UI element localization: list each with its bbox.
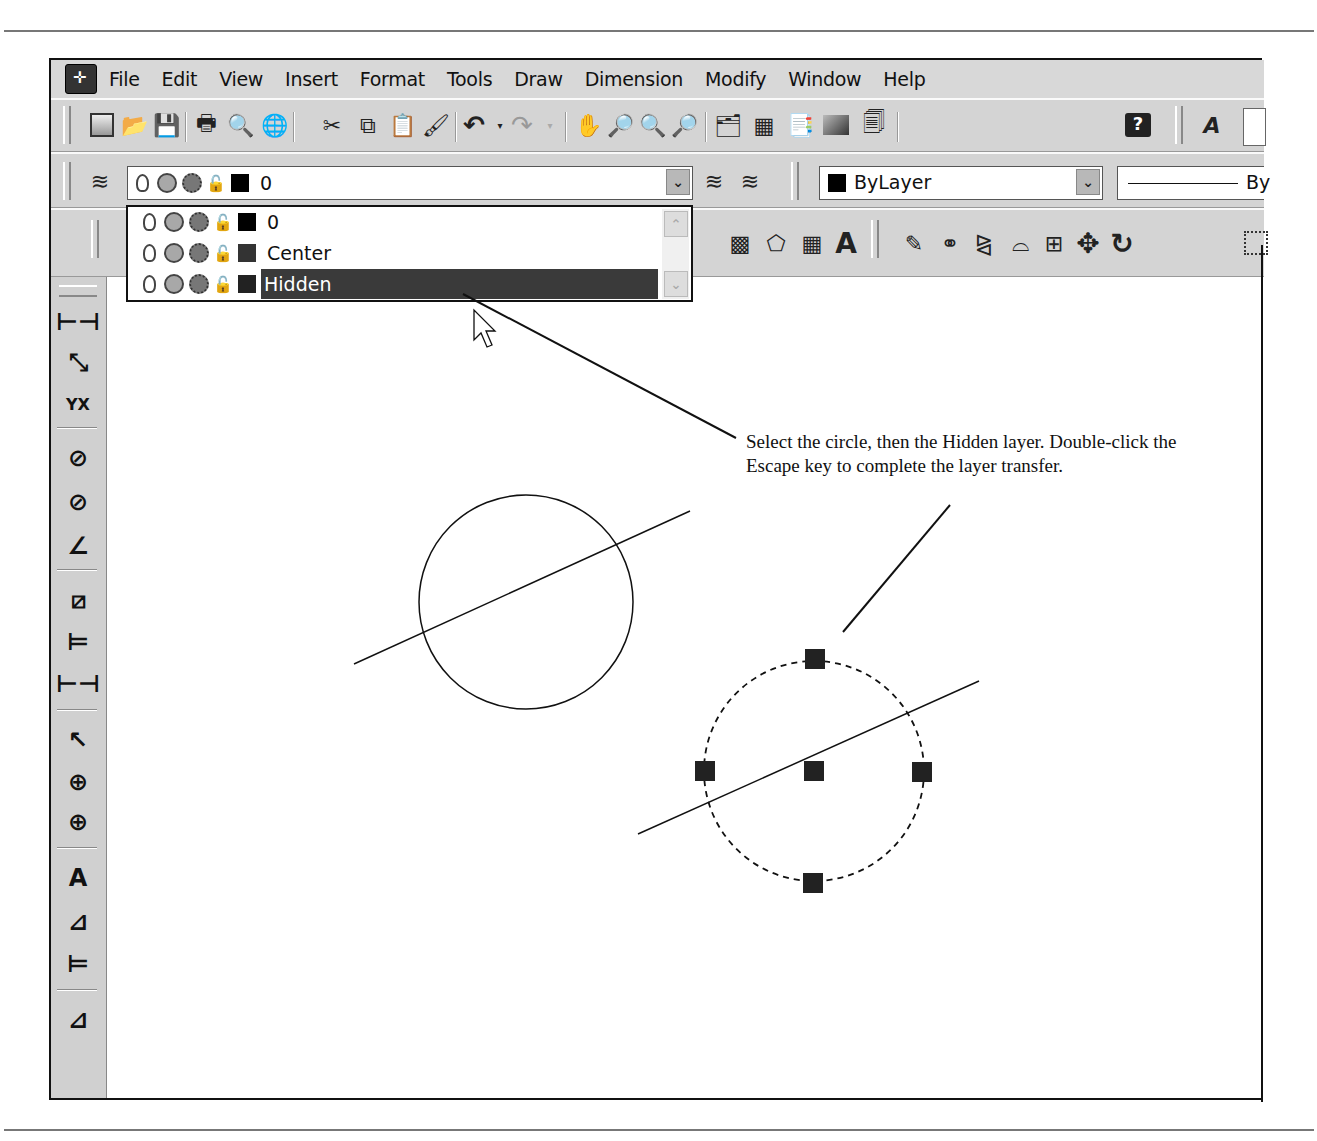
circle-continuous[interactable] <box>419 495 633 709</box>
grip-center[interactable] <box>804 761 824 781</box>
mouse-cursor-icon <box>474 310 495 347</box>
callout-leader-2 <box>843 505 950 632</box>
grip-right[interactable] <box>912 762 932 782</box>
line-2[interactable] <box>638 681 979 834</box>
callout-leader-1 <box>463 294 736 438</box>
grip-bottom[interactable] <box>803 873 823 893</box>
grip-left[interactable] <box>695 761 715 781</box>
drawing-geometry <box>0 0 1317 1141</box>
grip-top[interactable] <box>805 649 825 669</box>
line-1[interactable] <box>354 511 690 664</box>
